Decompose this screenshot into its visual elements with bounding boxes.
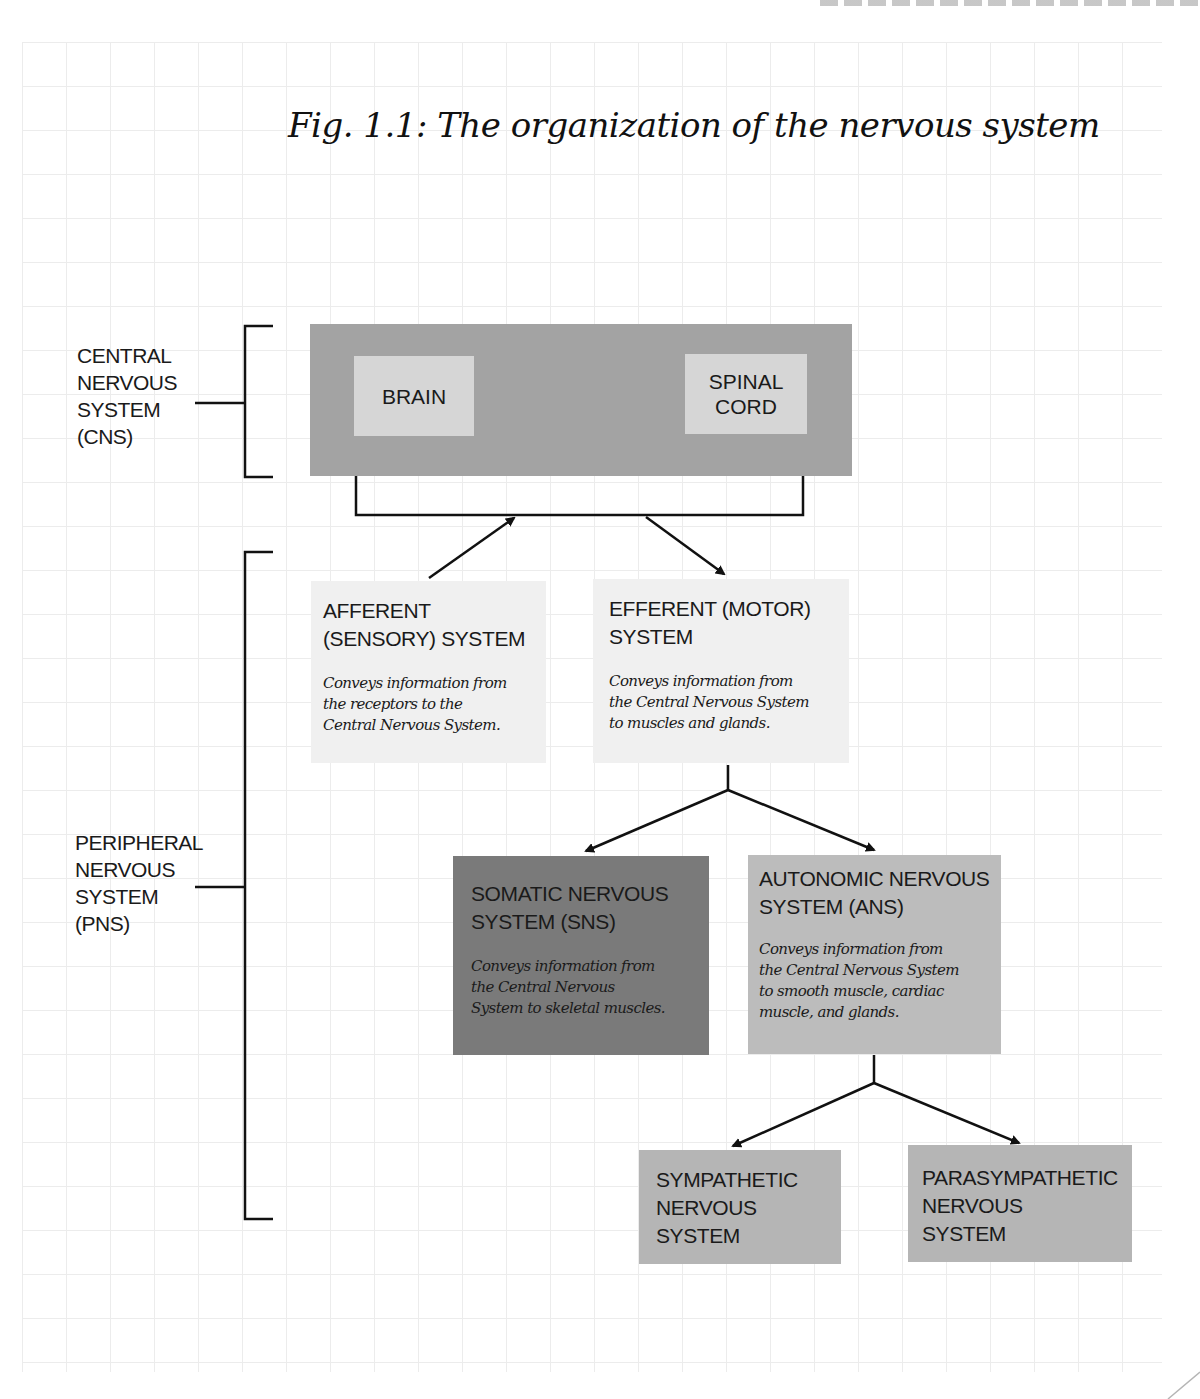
sympathetic-nervous-system-box: SYMPATHETIC NERVOUS SYSTEM	[639, 1150, 841, 1264]
parasympathetic-title: PARASYMPATHETIC NERVOUS SYSTEM	[922, 1164, 1118, 1248]
afferent-system-box: AFFERENT (SENSORY) SYSTEM Conveys inform…	[311, 581, 546, 763]
brain-box: BRAIN	[354, 356, 474, 436]
pns-side-label: PERIPHERAL NERVOUS SYSTEM (PNS)	[75, 829, 203, 937]
afferent-title: AFFERENT (SENSORY) SYSTEM	[323, 597, 534, 653]
figure-title: Fig. 1.1: The organization of the nervou…	[288, 105, 1100, 145]
cns-side-label: CENTRAL NERVOUS SYSTEM (CNS)	[77, 342, 177, 450]
brain-label: BRAIN	[382, 384, 446, 409]
efferent-title: EFFERENT (MOTOR) SYSTEM	[609, 595, 833, 651]
parasympathetic-nervous-system-box: PARASYMPATHETIC NERVOUS SYSTEM	[908, 1145, 1132, 1262]
efferent-description: Conveys information from the Central Ner…	[609, 671, 833, 734]
autonomic-description: Conveys information from the Central Ner…	[759, 939, 990, 1023]
afferent-description: Conveys information from the receptors t…	[323, 673, 534, 736]
somatic-description: Conveys information from the Central Ner…	[471, 956, 691, 1019]
spinal-cord-label: SPINAL CORD	[709, 369, 784, 419]
cns-box: BRAIN SPINAL CORD	[310, 324, 852, 476]
somatic-nervous-system-box: SOMATIC NERVOUS SYSTEM (SNS) Conveys inf…	[453, 856, 709, 1055]
spinal-cord-box: SPINAL CORD	[685, 354, 807, 434]
autonomic-title: AUTONOMIC NERVOUS SYSTEM (ANS)	[759, 865, 990, 921]
somatic-title: SOMATIC NERVOUS SYSTEM (SNS)	[471, 880, 691, 936]
page-header-strip	[820, 0, 1200, 6]
efferent-system-box: EFFERENT (MOTOR) SYSTEM Conveys informat…	[593, 579, 849, 763]
sympathetic-title: SYMPATHETIC NERVOUS SYSTEM	[656, 1166, 824, 1250]
page-curl-mark	[1168, 1372, 1200, 1399]
autonomic-nervous-system-box: AUTONOMIC NERVOUS SYSTEM (ANS) Conveys i…	[748, 855, 1001, 1054]
